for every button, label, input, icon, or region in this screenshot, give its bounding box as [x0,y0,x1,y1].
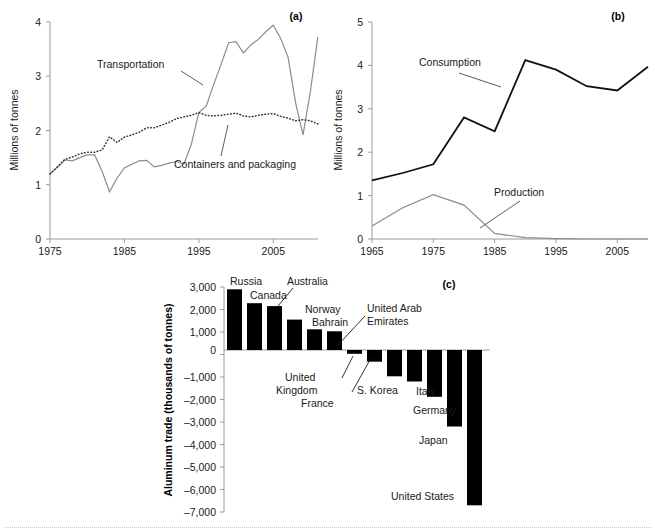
panel-c-label-uae-line1: United Arab [367,302,422,314]
panel-c-ytick-n7000: –7,000 [184,506,216,518]
panel-b-ytick-4: 4 [357,59,363,71]
bar-s-korea [387,350,402,376]
bar-norway [287,320,302,350]
panel-c-label-norway: Norway [305,303,341,315]
panel-c-y-axis-label: Aluminum trade (thousands of tonnes) [162,303,174,496]
panel-a-xtick-2005: 2005 [262,245,286,257]
panel-b-xtick-1985: 1985 [483,245,507,257]
bar-bahrain [307,329,322,350]
panel-b-annot-production: Production [494,186,544,198]
panel-c-ytick-n5000: –5,000 [184,461,216,473]
panel-a-ytick-4: 4 [35,16,41,28]
panel-a-y-ticks [46,22,50,239]
panel-c-label-australia: Australia [287,275,328,287]
bar-canada [247,303,262,350]
panel-b-ytick-3: 3 [357,103,363,115]
figure-aluminum-trade: 0 1 2 3 4 1975 1985 1995 2005 Millions o… [0,0,655,532]
panel-c-label-bahrain: Bahrain [312,316,348,328]
panel-c-leader-uk [342,356,353,378]
panel-b-xtick-1975: 1975 [422,245,446,257]
panel-b-xtick-2005: 2005 [606,245,630,257]
panel-a-ytick-2: 2 [35,125,41,137]
panel-c-label-uk-line2: Kingdom [276,384,318,396]
bar-russia [227,289,242,350]
panel-a-ytick-1: 1 [35,179,41,191]
panel-c-label-canada: Canada [250,289,287,301]
panel-b-xtick-1995: 1995 [544,245,568,257]
panel-c-ytick-n3000: –3,000 [184,416,216,428]
panel-a-leader-containers [221,125,228,156]
panel-b-ytick-5: 5 [357,16,363,28]
panel-c-ytick-n4000: –4,000 [184,439,216,451]
panel-b-xtick-1965: 1965 [360,245,384,257]
panel-a-svg: 0 1 2 3 4 1975 1985 1995 2005 Millions o… [0,0,330,268]
panel-a-x-ticks [50,239,273,243]
panel-c-ytick-2000: 2,000 [190,304,216,316]
bar-australia [267,306,282,350]
panel-c-ytick-n1000: –1,000 [184,371,216,383]
panel-c-svg: 3,000 2,000 1,000 0 –1,000 –2,000 –3,000… [160,268,500,532]
panel-a-xtick-1975: 1975 [38,245,62,257]
series-consumption [372,60,648,180]
panel-b-ytick-1: 1 [357,190,363,202]
panel-a-y-axis-label: Millions of tonnes [8,89,20,170]
panel-c-label-uk-line1: United [285,371,316,383]
panel-b-leader-consumption [459,73,501,87]
panel-c-label-uae-line2: Emirates [367,315,408,327]
panel-c-label-france: France [301,397,334,409]
panel-a-annot-transportation: Transportation [97,58,164,70]
panel-a-ytick-3: 3 [35,70,41,82]
panel-c-ytick-0: 0 [210,344,216,356]
panel-c-label-japan: Japan [419,434,448,446]
bar-united-kingdom [347,350,362,354]
panel-b-tag: (b) [611,10,624,22]
page-bottom-rule [4,527,651,529]
panel-b-annot-consumption: Consumption [419,56,481,68]
panel-a-annot-containers: Containers and packaging [174,158,296,170]
bar-united-states [467,350,482,505]
panel-c-label-germany: Germany [413,404,457,416]
panel-c-y-ticks [220,287,224,512]
panel-a-leader-transportation [181,71,203,85]
panel-c-tag: (c) [443,278,456,290]
panel-c-ytick-1000: 1,000 [190,326,216,338]
panel-c-aluminum-trade-by-country: 3,000 2,000 1,000 0 –1,000 –2,000 –3,000… [160,268,500,532]
panel-b-leader-production [480,201,520,228]
panel-c-ytick-n6000: –6,000 [184,484,216,496]
panel-b-ytick-0: 0 [357,233,363,245]
panel-c-label-russia: Russia [230,275,262,287]
panel-c-label-united-states: United States [391,490,454,502]
panel-c-ytick-3000: 3,000 [190,281,216,293]
bar-france [367,350,382,362]
panel-b-consumption-production: 0 1 2 3 4 5 1965 1975 1985 1995 2005 Mil… [330,0,655,268]
bar-united-arab-emirates [327,331,342,350]
panel-c-label-italy: Italy [416,385,436,397]
panel-a-xtick-1995: 1995 [187,245,211,257]
panel-b-ytick-2: 2 [357,146,363,158]
series-production [372,195,648,239]
bar-italy [407,350,422,382]
panel-c-ytick-n2000: –2,000 [184,394,216,406]
panel-b-svg: 0 1 2 3 4 5 1965 1975 1985 1995 2005 Mil… [330,0,655,268]
panel-c-bars [227,289,482,505]
panel-b-y-axis-label: Millions of tonnes [332,89,344,170]
panel-a-tag: (a) [290,10,303,22]
panel-b-x-ticks [372,239,617,243]
panel-b-axes [372,22,648,239]
panel-a-us-aluminum-end-uses: 0 1 2 3 4 1975 1985 1995 2005 Millions o… [0,0,330,268]
panel-a-axes [50,22,318,239]
panel-a-ytick-0: 0 [35,233,41,245]
panel-c-label-s-korea: S. Korea [357,384,398,396]
panel-a-xtick-1985: 1985 [113,245,137,257]
panel-b-y-ticks [368,22,372,239]
